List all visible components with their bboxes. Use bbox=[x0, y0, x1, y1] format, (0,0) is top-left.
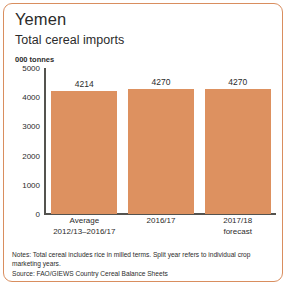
bar-value-label: 4214 bbox=[75, 79, 94, 89]
x-axis-category-labels: Average2012/13–2016/172016/172017/18fore… bbox=[4, 216, 283, 244]
y-axis-line bbox=[44, 68, 46, 215]
y-axis-tick-label: 5000 bbox=[4, 64, 40, 73]
x-axis-category-label-line: 2012/13–2016/17 bbox=[24, 227, 144, 238]
y-axis-tick-labels: 500040003000200010000 bbox=[4, 63, 40, 216]
chart-title: Total cereal imports bbox=[15, 33, 124, 47]
bar-value-label: 4270 bbox=[228, 77, 247, 87]
y-axis-tick-label: 1000 bbox=[4, 180, 40, 189]
chart-plot-area: 500040003000200010000 421442704270 bbox=[4, 63, 283, 216]
x-axis-category-label-line: 2017/18 bbox=[178, 216, 283, 227]
y-axis-tick-label: 2000 bbox=[4, 151, 40, 160]
chart-notes: Notes: Total cereal includes rice in mil… bbox=[12, 251, 276, 268]
y-axis-tick-label: 4000 bbox=[4, 93, 40, 102]
chart-source: Source: FAO/GIEWS Country Cereal Balance… bbox=[12, 270, 276, 279]
chart-card: Yemen Total cereal imports 000 tonnes 50… bbox=[3, 3, 283, 282]
bar-value-label: 4270 bbox=[152, 77, 171, 87]
x-axis-category-label-line: forecast bbox=[178, 227, 283, 238]
bar: 4270 bbox=[128, 89, 194, 214]
bar: 4214 bbox=[51, 91, 117, 214]
x-axis-category-label: 2017/18forecast bbox=[178, 216, 283, 237]
page-title: Yemen bbox=[15, 10, 66, 29]
y-axis-tick-label: 3000 bbox=[4, 122, 40, 131]
bar: 4270 bbox=[205, 89, 271, 214]
